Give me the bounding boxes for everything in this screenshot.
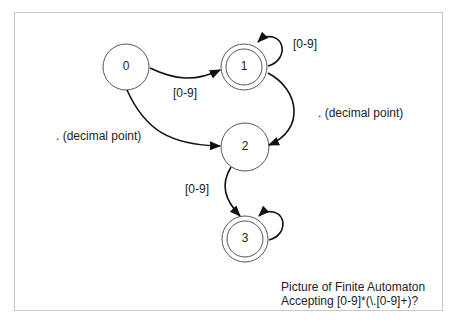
automaton-graph <box>0 0 456 325</box>
edge-0-2-label: . (decimal point) <box>56 129 141 143</box>
state-0-label: 0 <box>116 59 136 73</box>
state-3-label: 3 <box>235 231 255 245</box>
edge-1-2 <box>268 73 294 145</box>
edge-2-3-label: [0-9] <box>185 182 209 196</box>
edge-0-1-label: [0-9] <box>173 86 197 100</box>
caption-line-1: Picture of Finite Automaton <box>281 280 425 294</box>
state-2-label: 2 <box>235 139 255 153</box>
edge-1-1-label: [0-9] <box>293 37 317 51</box>
edge-1-2-label: . (decimal point) <box>318 106 403 120</box>
state-1-label: 1 <box>234 59 254 73</box>
caption-line-2: Accepting [0-9]*(\.[0-9]+)? <box>281 294 425 308</box>
edge-2-3 <box>225 167 240 216</box>
edge-0-1 <box>150 68 220 78</box>
caption: Picture of Finite Automaton Accepting [0… <box>281 280 425 308</box>
